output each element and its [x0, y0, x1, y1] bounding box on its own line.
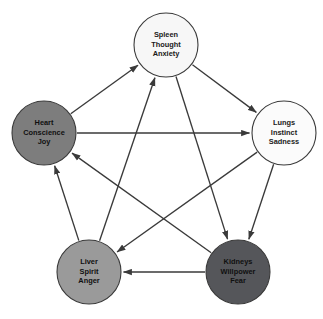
node-label-spleen-1: Spleen [154, 30, 179, 39]
edge-lungs-to-liver [117, 152, 257, 252]
pentagram-diagram: SpleenThoughtAnxietyLungsInstinctSadness… [0, 0, 323, 319]
node-label-spleen-2: Thought [151, 40, 181, 49]
node-label-lungs-1: Lungs [273, 118, 295, 127]
node-label-heart-3: Joy [38, 137, 52, 146]
node-heart[interactable]: HeartConscienceJoy [12, 101, 76, 165]
edge-kidneys-to-heart [72, 153, 211, 253]
node-label-kidneys-3: Fear [230, 276, 246, 285]
node-label-kidneys-2: Willpower [221, 267, 256, 276]
node-label-liver-2: Spirit [80, 267, 99, 276]
node-label-liver-1: Liver [80, 257, 98, 266]
node-label-kidneys-1: Kidneys [224, 257, 253, 266]
node-label-liver-3: Anger [78, 276, 99, 285]
node-liver[interactable]: LiverSpiritAnger [57, 240, 121, 304]
edge-spleen-to-lungs [192, 65, 256, 113]
node-spleen[interactable]: SpleenThoughtAnxiety [134, 13, 198, 77]
node-label-spleen-3: Anxiety [153, 49, 181, 58]
edge-heart-to-spleen [71, 65, 138, 114]
edge-liver-to-spleen [100, 78, 155, 241]
node-label-heart-1: Heart [35, 118, 54, 127]
nodes-layer: SpleenThoughtAnxietyLungsInstinctSadness… [12, 13, 316, 304]
node-label-lungs-2: Instinct [271, 128, 298, 137]
node-kidneys[interactable]: KidneysWillpowerFear [206, 240, 270, 304]
node-label-lungs-3: Sadness [269, 137, 299, 146]
node-label-heart-2: Conscience [23, 128, 65, 137]
diagram-canvas: SpleenThoughtAnxietyLungsInstinctSadness… [0, 0, 323, 319]
edge-spleen-to-kidneys [176, 76, 228, 239]
edge-liver-to-heart [55, 166, 79, 241]
node-lungs[interactable]: LungsInstinctSadness [252, 101, 316, 165]
edge-lungs-to-kidneys [249, 164, 274, 239]
